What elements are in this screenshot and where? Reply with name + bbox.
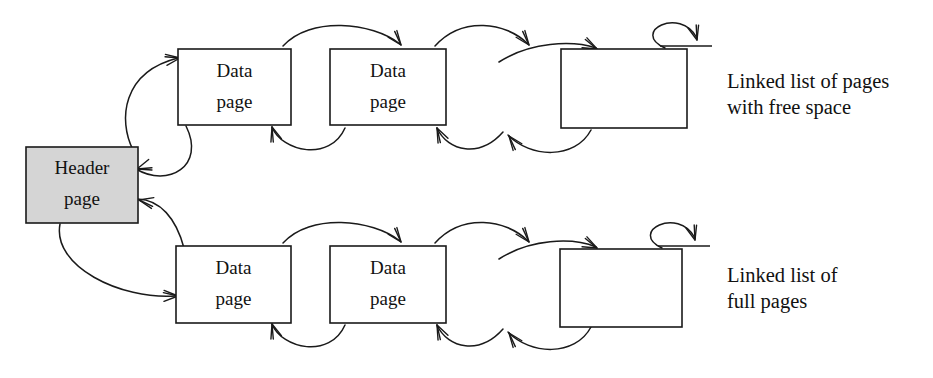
header-page-node[interactable]: Header page [26, 147, 138, 223]
page-label-line1: Data [216, 257, 252, 278]
page-label-line1: Data [370, 60, 406, 81]
page-node[interactable]: Datapage [178, 49, 291, 125]
row-label-line2: with free space [727, 96, 851, 119]
connector-full-page-2-backward-in [437, 325, 503, 346]
connector-free-page-2-forward-out [435, 25, 528, 46]
page-label-line1: Data [370, 257, 406, 278]
page-label-line2: page [370, 288, 406, 309]
row-label-layer: Linked list of pageswith free spaceLinke… [727, 70, 889, 313]
connector-free-page-1-to-2 [283, 25, 400, 46]
connector-free-page-2-to-1 [272, 127, 345, 150]
page-node[interactable] [560, 249, 682, 327]
page-label-line1: Data [217, 60, 253, 81]
connector-full-page-3-tail-loop [650, 223, 695, 248]
connector-full-page-1-to-2 [283, 222, 400, 243]
row-label: Linked list of pageswith free space [727, 70, 889, 119]
connector-full-page-2-forward-out [435, 222, 528, 243]
arrowhead-icon [137, 169, 152, 170]
row-label-line1: Linked list of pages [727, 70, 889, 93]
row-label: Linked list offull pages [727, 264, 838, 313]
arrowhead-icon [587, 237, 597, 248]
connector-header-to-full-page-1 [59, 224, 176, 296]
arrowhead-icon [271, 324, 272, 339]
page-node[interactable]: Datapage [176, 246, 291, 323]
connector-full-page-2-to-1 [272, 324, 345, 347]
page-label-line2: page [217, 91, 253, 112]
page-node[interactable]: Datapage [330, 49, 446, 125]
arrowhead-icon [697, 25, 699, 40]
arrowhead-icon [271, 127, 272, 142]
connector-header-to-free-page-1 [126, 58, 178, 150]
diagram-canvas: Header page DatapageDatapageDatapageData… [0, 0, 933, 378]
connector-free-page-3-backward-out [508, 130, 591, 152]
heap-file-structure-diagram: Header page DatapageDatapageDatapageData… [0, 0, 933, 378]
page-label-line2: page [216, 288, 252, 309]
page-node-layer: DatapageDatapageDatapageDatapage [176, 49, 687, 327]
header-page-label-line2: page [64, 188, 100, 209]
page-node[interactable]: Datapage [330, 246, 446, 323]
row-label-line1: Linked list of [727, 264, 838, 286]
arrowhead-icon [695, 225, 697, 240]
connector-full-page-1-to-header [138, 199, 184, 248]
connector-free-page-2-backward-in [437, 128, 503, 149]
page-label-line2: page [370, 91, 406, 112]
page-box[interactable] [560, 249, 682, 327]
header-page-label-line1: Header [55, 157, 111, 178]
row-label-line2: full pages [727, 290, 807, 313]
connector-full-page-3-backward-out [508, 327, 591, 349]
connector-free-page-3-tail-loop [653, 23, 697, 48]
arrowhead-icon [137, 160, 152, 169]
page-node[interactable] [561, 49, 687, 128]
page-box[interactable] [561, 49, 687, 128]
